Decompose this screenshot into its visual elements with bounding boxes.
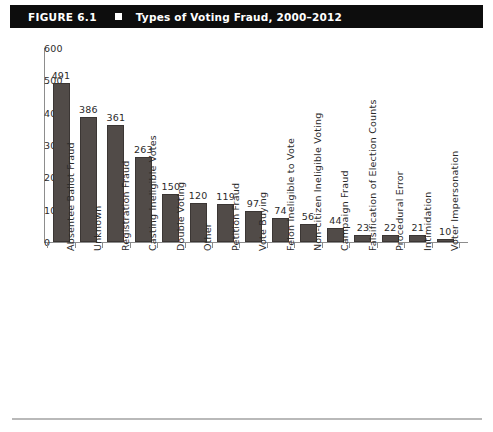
- x-axis-category-label: Felon Ineligible to Vote: [285, 138, 296, 251]
- x-axis-category-label: Non-citizen Ineligible Voting: [312, 113, 323, 251]
- x-axis-category-label-text: Non-citizen Ineligible Voting: [312, 113, 323, 251]
- x-axis-category-label-text: Vote Buying: [257, 192, 268, 251]
- x-axis-category-label: Petition Fraud: [230, 183, 241, 251]
- x-axis-category-label: Vote Buying: [257, 192, 268, 251]
- x-axis-category-label-text: Double Voting: [175, 182, 186, 251]
- x-axis-category-label-text: Procedural Error: [394, 171, 405, 251]
- x-axis-category-label: Falsification of Election Counts: [367, 99, 378, 251]
- x-axis-category-label: Intimidation: [422, 191, 433, 251]
- x-axis-category-label-text: Absentee Ballot Fraud: [65, 142, 76, 251]
- x-axis-category-label: Double Voting: [175, 182, 186, 251]
- x-axis-category-label: Unknown: [92, 206, 103, 252]
- x-axis-category-label-text: Other: [202, 223, 213, 251]
- x-axis-category-label-text: Voter Impersonation: [449, 150, 460, 251]
- x-axis-category-label-text: Unknown: [92, 206, 103, 252]
- square-bullet-icon: [115, 13, 122, 20]
- x-axis-category-label-text: Intimidation: [422, 191, 433, 251]
- figure-header-bar: FIGURE 6.1 Types of Voting Fraud, 2000–2…: [10, 5, 483, 28]
- x-axis-category-label: Registration Fraud: [120, 161, 131, 251]
- x-axis-category-label: Voter Impersonation: [449, 150, 460, 251]
- x-axis-category-label: Casting Ineligible Votes: [147, 135, 158, 251]
- x-axis-category-label-text: Felon Ineligible to Vote: [285, 138, 296, 251]
- x-axis-category-label-text: Petition Fraud: [230, 183, 241, 251]
- x-axis-category-label: Other: [202, 223, 213, 251]
- x-axis-category-label: Absentee Ballot Fraud: [65, 142, 76, 251]
- x-axis-category-label-text: Casting Ineligible Votes: [147, 135, 158, 251]
- x-axis-tick-mark: [47, 243, 48, 248]
- x-axis-category-label-text: Falsification of Election Counts: [367, 99, 378, 251]
- x-axis-category-label-text: Campaign Fraud: [339, 170, 350, 251]
- bottom-divider: [12, 418, 482, 420]
- x-axis-category-label: Campaign Fraud: [339, 170, 350, 251]
- x-axis-category-label-text: Registration Fraud: [120, 161, 131, 251]
- figure-number: FIGURE 6.1: [28, 11, 97, 23]
- bar-chart: 0100200300400500600 49138636126315012011…: [0, 30, 493, 400]
- figure-title: Types of Voting Fraud, 2000–2012: [136, 11, 342, 23]
- x-axis-category-label: Procedural Error: [394, 171, 405, 251]
